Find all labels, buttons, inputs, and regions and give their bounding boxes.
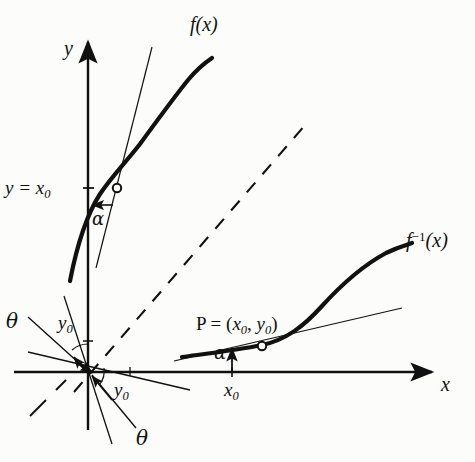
label-point-P-xvar: x [232, 313, 240, 334]
point-marker-on-f [113, 184, 121, 192]
label-y-equals-x0-lhs: y = [5, 177, 36, 198]
x-axis [14, 367, 432, 377]
curve-label-finv-exponent: −1 [412, 229, 426, 244]
x-axis-label: x [441, 374, 450, 394]
label-alpha-lower: α [214, 344, 226, 362]
curve-label-f: f(x) [190, 14, 218, 34]
label-y0-vertical: y0 [58, 313, 73, 335]
label-point-P-rhs: ) [271, 313, 277, 334]
label-point-P-lhs: P = ( [196, 313, 232, 334]
label-alpha-upper: α [92, 210, 104, 228]
label-point-P-yvar: y [257, 313, 265, 334]
line-y-equals-x [74, 124, 306, 392]
curve-label-finv-arg: (x) [426, 229, 448, 251]
label-y0-horizontal: y0 [114, 380, 129, 402]
dashed-line-lower-fragments [30, 380, 66, 416]
label-y0-vertical-sub: 0 [66, 322, 72, 336]
label-theta-bottom: θ [136, 428, 148, 448]
label-y-equals-x0-sub: 0 [44, 187, 50, 201]
label-point-P: P = (x0, y0) [196, 314, 278, 336]
label-point-P-sep: , [247, 313, 257, 334]
curve-label-f-arg: (x) [196, 13, 218, 35]
figure-root: y x f(x) f−1(x) y = x0 P = (x0, y0) x0 y… [0, 0, 475, 462]
label-y-equals-x0: y = x0 [5, 178, 50, 200]
label-y-equals-x0-var: x [36, 177, 44, 198]
curve-f-inverse [182, 243, 412, 357]
point-marker-P [258, 342, 266, 350]
label-x0-tick: x0 [224, 380, 239, 402]
curve-label-f-inverse: f−1(x) [406, 230, 448, 250]
label-x0-tick-sub: 0 [232, 389, 238, 403]
y-axis-label: y [64, 38, 73, 58]
label-y0-horizontal-sub: 0 [122, 389, 128, 403]
label-theta-left: θ [6, 311, 18, 331]
tangent-line-f [96, 47, 152, 268]
